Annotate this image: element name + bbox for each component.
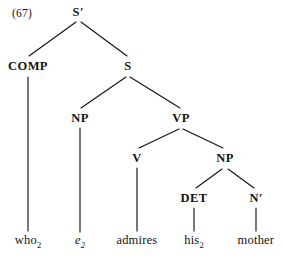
node-n-bar-prime: ′ bbox=[259, 191, 263, 205]
edge-s_bar-to-comp bbox=[29, 22, 76, 56]
leaf-his: his2 bbox=[184, 234, 204, 249]
edge-vp-to-np_object bbox=[183, 129, 223, 148]
edge-s-to-vp bbox=[130, 77, 180, 108]
edge-np_object-to-n_bar bbox=[228, 169, 254, 188]
leaf-admires: admires bbox=[116, 234, 157, 249]
node-vp: VP bbox=[172, 112, 189, 125]
node-s-bar: S′ bbox=[73, 6, 84, 19]
node-np-object: NP bbox=[216, 152, 233, 165]
node-np-subject: NP bbox=[71, 112, 88, 125]
node-s-bar-prime: ′ bbox=[80, 5, 84, 19]
leaf-who-subscript: 2 bbox=[37, 239, 41, 249]
node-comp: COMP bbox=[8, 60, 48, 73]
leaf-who-word: who bbox=[15, 233, 37, 247]
edge-s-to-np_subject bbox=[81, 77, 126, 108]
node-det: DET bbox=[181, 192, 208, 205]
tree-diagram-figure: (67) S′ COMP S NP VP V NP DET N′ who2 e2… bbox=[0, 0, 283, 256]
leaf-trace: e2 bbox=[75, 234, 85, 249]
node-v: V bbox=[132, 152, 141, 165]
node-n-bar-label: N bbox=[250, 191, 259, 205]
leaf-who: who2 bbox=[15, 234, 42, 249]
node-s: S bbox=[124, 60, 131, 73]
leaf-mother: mother bbox=[238, 234, 275, 249]
tree-branch-lines bbox=[0, 0, 283, 256]
example-number: (67) bbox=[12, 8, 32, 20]
edge-np_object-to-det bbox=[196, 169, 222, 188]
leaf-his-subscript: 2 bbox=[199, 239, 203, 249]
edge-vp-to-v bbox=[139, 129, 179, 148]
leaf-trace-word: e bbox=[75, 233, 81, 247]
leaf-trace-subscript: 2 bbox=[81, 239, 85, 249]
edge-s_bar-to-s bbox=[81, 22, 127, 56]
leaf-admires-word: admires bbox=[116, 233, 157, 247]
leaf-his-word: his bbox=[184, 233, 199, 247]
node-n-bar: N′ bbox=[250, 192, 263, 205]
leaf-mother-word: mother bbox=[238, 233, 275, 247]
